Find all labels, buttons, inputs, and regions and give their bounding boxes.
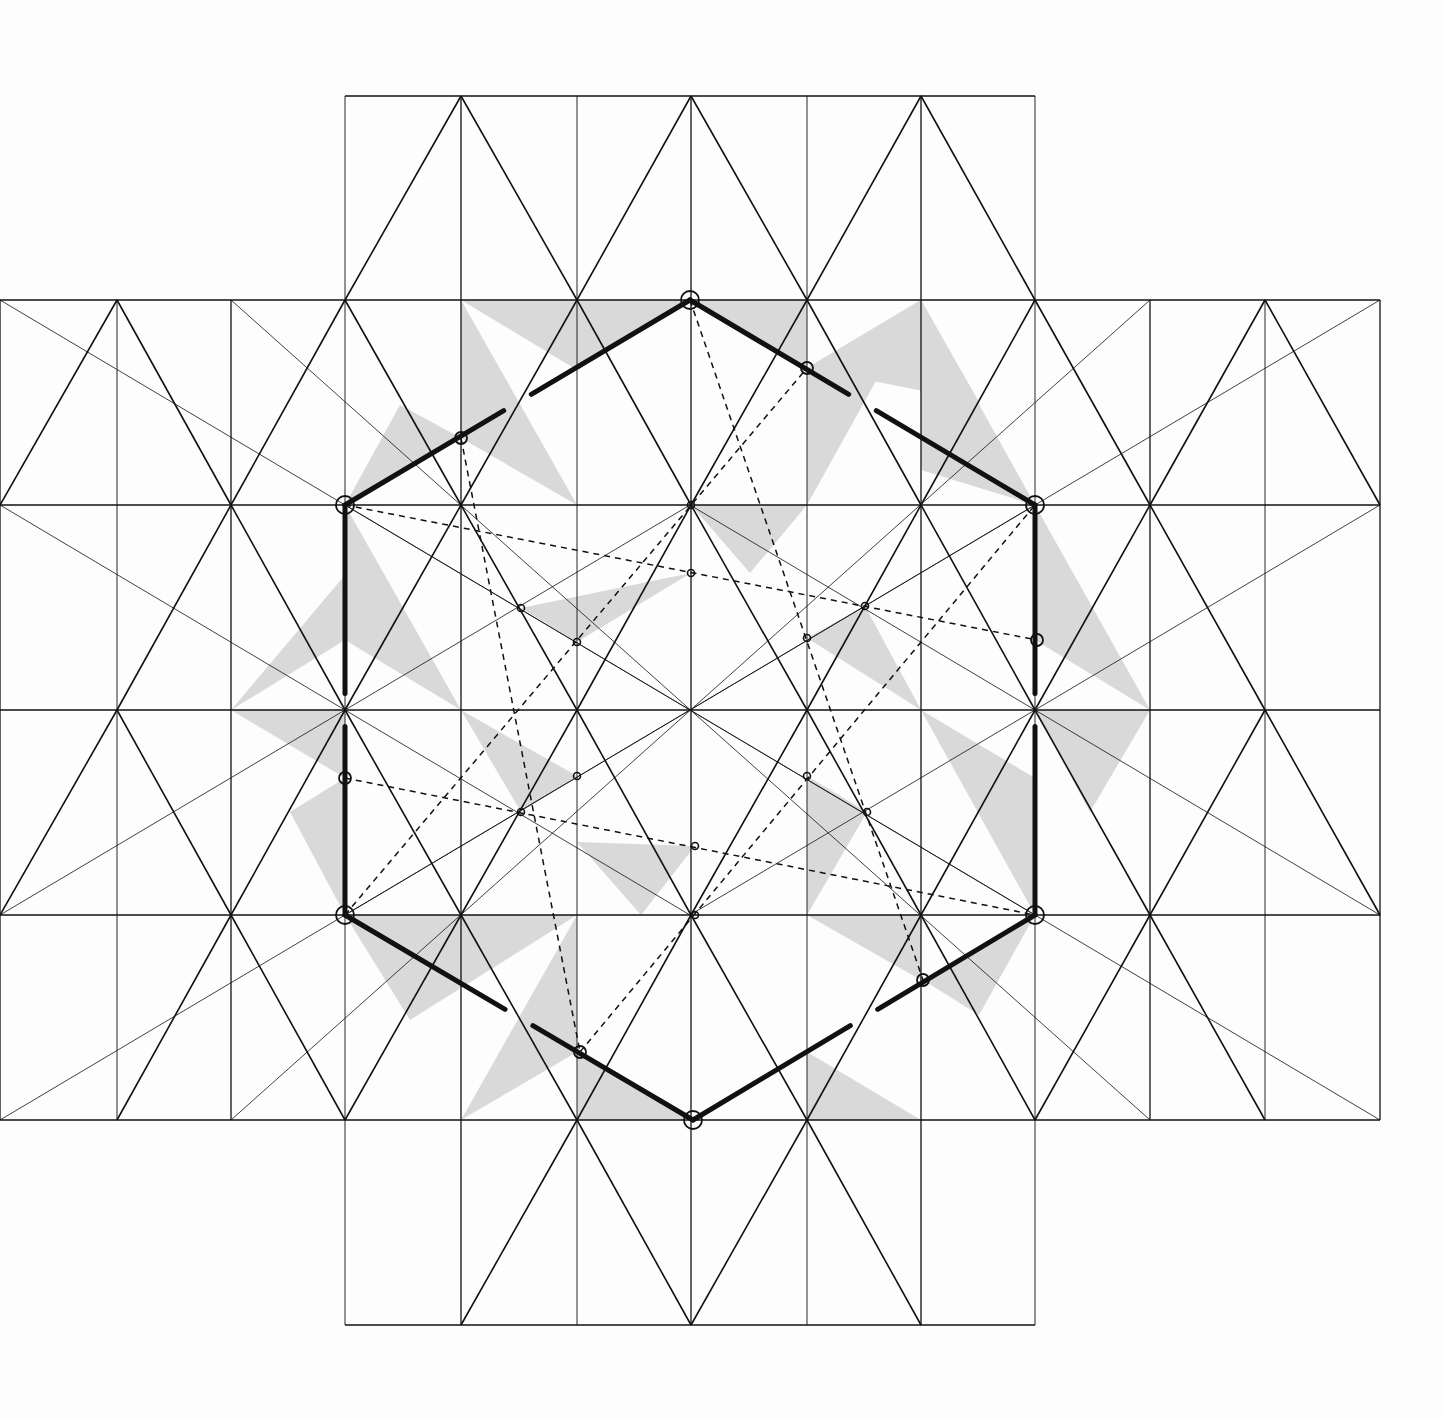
grid-line — [577, 1120, 691, 1325]
grid-line — [0, 710, 117, 915]
grid-line — [807, 1120, 921, 1325]
grid-line — [117, 300, 231, 505]
grid-line — [345, 96, 461, 300]
grid-line — [577, 96, 691, 300]
grid-line — [691, 1120, 807, 1325]
grid-line — [921, 505, 1035, 710]
grid-line — [921, 96, 1035, 300]
grid-line — [461, 1120, 577, 1325]
grid-line — [345, 710, 461, 915]
grid-line — [461, 96, 577, 300]
shaded-triangle — [807, 606, 921, 710]
grid-line — [807, 96, 921, 300]
shaded-triangle — [461, 710, 577, 812]
grid-line — [231, 915, 345, 1120]
grid-line — [1035, 300, 1150, 505]
grid-line — [0, 300, 117, 505]
hexagon-lattice-figure — [0, 0, 1443, 1418]
shaded-triangle — [577, 842, 695, 915]
shaded-triangle — [807, 1052, 921, 1120]
triangular-grid — [0, 96, 1380, 1325]
grid-line — [691, 710, 807, 915]
grid-line — [1265, 710, 1380, 915]
grid-line — [1035, 915, 1150, 1120]
grid-line — [691, 96, 807, 300]
shaded-triangle — [691, 505, 807, 573]
shaded-triangle — [923, 915, 1035, 1015]
shaded-triangle — [290, 778, 345, 915]
grid-line — [921, 915, 1035, 1120]
grid-line — [1265, 300, 1380, 505]
shaded-triangle — [521, 573, 691, 642]
grid-line — [231, 300, 345, 505]
dashed-line — [690, 300, 923, 980]
shaded-triangle — [1035, 710, 1150, 812]
grid-line — [117, 710, 231, 915]
geometric-diagram — [0, 0, 1443, 1418]
grid-line — [117, 505, 231, 710]
shaded-triangle — [461, 300, 690, 370]
shaded-triangle — [231, 575, 345, 710]
grid-line — [117, 915, 231, 1120]
shaded-triangle — [807, 776, 867, 915]
